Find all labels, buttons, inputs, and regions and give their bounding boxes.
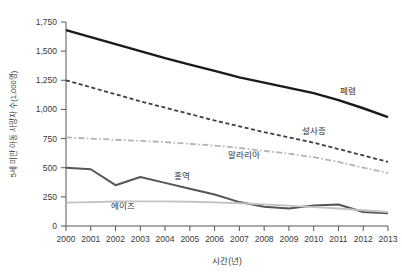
x-tick-label: 2012 [354, 234, 373, 244]
x-tick-label: 2010 [304, 234, 323, 244]
y-tick-label: 500 [43, 163, 57, 173]
x-tick-label: 2003 [131, 234, 150, 244]
x-tick-label: 2007 [230, 234, 249, 244]
x-tick-label: 2001 [81, 234, 100, 244]
x-tick-label: 2008 [255, 234, 274, 244]
x-tick-label: 2005 [180, 234, 199, 244]
series-label-1: 설사증 [302, 126, 326, 136]
y-tick-label: 0 [52, 221, 57, 231]
series-label-2: 말라리아 [228, 150, 260, 160]
x-tick-label: 2006 [205, 234, 224, 244]
y-axis-title: 5세 미만 아동 사망자 수(1,000명) [8, 70, 18, 177]
x-tick-label: 2002 [106, 234, 125, 244]
x-tick-label: 2000 [57, 234, 76, 244]
y-tick-label: 750 [43, 134, 57, 144]
x-tick-label: 2009 [279, 234, 298, 244]
series-label-4: 에이즈 [111, 201, 135, 211]
x-tick-label: 2013 [379, 234, 398, 244]
chart-container: 02505007501,0001,2501,5001,7502000200120… [0, 0, 402, 272]
y-tick-label: 1,750 [36, 17, 58, 27]
y-tick-label: 1,000 [36, 104, 58, 114]
series-line-2 [66, 137, 388, 173]
series-label-3: 홍역 [174, 171, 190, 181]
x-axis-title: 시간(년) [212, 256, 242, 266]
x-tick-label: 2011 [329, 234, 348, 244]
x-tick-label: 2004 [156, 234, 175, 244]
y-tick-label: 1,500 [36, 46, 58, 56]
y-tick-label: 1,250 [36, 75, 58, 85]
under-five-mortality-line-chart: 02505007501,0001,2501,5001,7502000200120… [0, 0, 402, 272]
series-line-0 [66, 30, 388, 117]
y-tick-label: 250 [43, 192, 57, 202]
series-label-0: 폐렴 [340, 86, 356, 96]
